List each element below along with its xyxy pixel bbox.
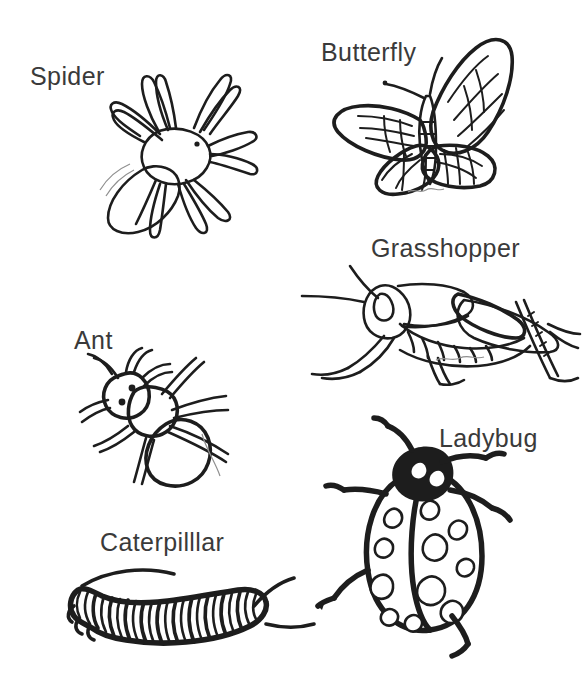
caterpillar-icon (62, 566, 324, 656)
spider-icon (78, 60, 268, 235)
grasshopper-icon (288, 250, 582, 385)
ant-icon (84, 348, 256, 490)
butterfly-icon (308, 36, 538, 196)
figure-label-caterpillar: Caterpilllar (100, 530, 224, 555)
ladybug-icon (330, 430, 530, 645)
coloring-worksheet: Spider Butterfly (0, 0, 582, 698)
